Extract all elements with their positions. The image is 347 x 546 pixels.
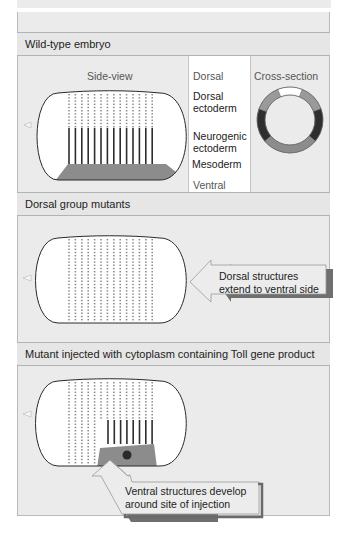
cell-dot xyxy=(100,277,102,278)
cell-dot xyxy=(94,281,96,282)
cell-dot xyxy=(75,268,77,269)
cell-dot xyxy=(81,271,83,272)
cell-dot xyxy=(113,411,115,412)
cell-dot xyxy=(145,100,147,101)
cell-dot xyxy=(113,319,115,320)
cell-dot xyxy=(94,436,96,437)
cell-dot xyxy=(107,97,109,98)
cell-dot xyxy=(139,319,141,320)
cell-dot xyxy=(68,290,70,291)
cell-dot xyxy=(68,252,70,253)
cell-dot xyxy=(113,245,115,246)
cell-dot xyxy=(119,271,121,272)
cell-dot xyxy=(151,94,153,95)
cell-dot xyxy=(126,313,128,314)
cell-dot xyxy=(139,104,141,105)
cell-dot xyxy=(151,303,153,304)
cell-dot xyxy=(151,271,153,272)
cell-dot xyxy=(81,417,83,418)
cell-dot xyxy=(126,382,128,383)
cell-dot xyxy=(113,126,115,127)
cell-dot xyxy=(132,107,134,108)
cell-dot xyxy=(107,417,109,418)
cell-dot xyxy=(100,395,102,396)
cell-dot xyxy=(132,293,134,294)
cell-dot xyxy=(94,459,96,460)
cell-dot xyxy=(75,107,77,108)
cell-dot xyxy=(151,395,153,396)
cell-dot xyxy=(75,258,77,259)
cell-dot xyxy=(94,398,96,399)
cell-dot xyxy=(75,303,77,304)
dorsal-mutant-embryo xyxy=(23,236,186,323)
cell-dot xyxy=(145,107,147,108)
cell-dot xyxy=(94,433,96,434)
cell-dot xyxy=(126,414,128,415)
cell-dot xyxy=(126,97,128,98)
cell-dot xyxy=(94,420,96,421)
ventral-callout-text: Ventral structures develop around site o… xyxy=(125,485,246,511)
cell-dot xyxy=(75,319,77,320)
cell-dot xyxy=(94,255,96,256)
cell-dot xyxy=(81,265,83,266)
cell-dot xyxy=(151,107,153,108)
cell-dot xyxy=(87,392,89,393)
cell-dot xyxy=(75,401,77,402)
cell-dot xyxy=(132,319,134,320)
cell-dot xyxy=(94,452,96,453)
cell-dot xyxy=(68,436,70,437)
cell-dot xyxy=(75,104,77,105)
cell-dot xyxy=(75,126,77,127)
cell-dot xyxy=(100,293,102,294)
cell-dot xyxy=(132,306,134,307)
cell-dot xyxy=(75,94,77,95)
cell-dot xyxy=(68,258,70,259)
neurogenic-stripe xyxy=(107,420,109,444)
cell-dot xyxy=(132,414,134,415)
cell-dot xyxy=(132,245,134,246)
cell-dot xyxy=(151,113,153,114)
cell-dot xyxy=(107,242,109,243)
cell-dot xyxy=(75,239,77,240)
cell-dot xyxy=(94,252,96,253)
cell-dot xyxy=(139,297,141,298)
cell-dot xyxy=(107,274,109,275)
cell-dot xyxy=(94,395,96,396)
cell-dot xyxy=(75,284,77,285)
cell-dot xyxy=(126,271,128,272)
cell-dot xyxy=(87,316,89,317)
cell-dot xyxy=(126,404,128,405)
cell-dot xyxy=(75,388,77,389)
cell-dot xyxy=(81,245,83,246)
cell-dot xyxy=(87,440,89,441)
cell-dot xyxy=(81,446,83,447)
cell-dot xyxy=(94,265,96,266)
cell-dot xyxy=(151,249,153,250)
cell-dot xyxy=(75,297,77,298)
cell-dot xyxy=(151,239,153,240)
cell-dot xyxy=(100,388,102,389)
cell-dot xyxy=(119,113,121,114)
cell-dot xyxy=(81,116,83,117)
cell-dot xyxy=(126,408,128,409)
cell-dot xyxy=(119,100,121,101)
cell-dot xyxy=(126,417,128,418)
pole-cell-marker xyxy=(23,275,31,281)
cell-dot xyxy=(94,306,96,307)
cell-dot xyxy=(75,404,77,405)
cell-dot xyxy=(87,424,89,425)
cell-dot xyxy=(151,268,153,269)
cell-dot xyxy=(75,414,77,415)
cell-dot xyxy=(68,313,70,314)
cell-dot xyxy=(94,274,96,275)
cell-dot xyxy=(145,284,147,285)
cell-dot xyxy=(87,398,89,399)
cell-dot xyxy=(100,100,102,101)
cell-dot xyxy=(87,404,89,405)
cell-dot xyxy=(75,443,77,444)
cell-dot xyxy=(113,274,115,275)
cell-dot xyxy=(68,255,70,256)
cell-dot xyxy=(100,274,102,275)
cell-dot xyxy=(113,252,115,253)
cell-dot xyxy=(113,316,115,317)
